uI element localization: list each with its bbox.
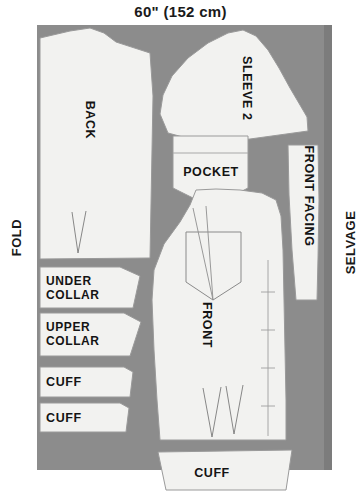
- pattern-piece-cuff-2: CUFF: [40, 403, 129, 432]
- cutting-layout-diagram: 60" (152 cm) FOLD SELVAGE BACK SLEEVE 2 …: [0, 0, 361, 496]
- piece-label-back: BACK: [83, 101, 97, 140]
- piece-label-pocket: POCKET: [183, 165, 239, 179]
- layout-illustration: BACK SLEEVE 2 POCKET FRONT FACING: [0, 0, 361, 496]
- piece-label-front: FRONT: [200, 302, 214, 348]
- piece-label-upper-collar-line2: COLLAR: [46, 334, 100, 348]
- piece-label-cuff-1: CUFF: [46, 375, 82, 389]
- piece-label-front-facing: FRONT FACING: [302, 146, 316, 247]
- fabric-shadow-right: [324, 25, 332, 470]
- piece-label-cuff-2: CUFF: [46, 411, 82, 425]
- piece-label-sleeve-2: SLEEVE 2: [240, 56, 254, 121]
- pattern-piece-under-collar: UNDER COLLAR: [40, 267, 140, 308]
- piece-label-cuff-3: CUFF: [194, 466, 230, 480]
- pattern-piece-back: BACK: [40, 28, 153, 259]
- piece-label-under-collar-line1: UNDER: [46, 274, 92, 288]
- pattern-piece-cuff-3: CUFF: [158, 450, 292, 490]
- piece-label-under-collar-line2: COLLAR: [46, 288, 100, 302]
- piece-label-upper-collar-line1: UPPER: [46, 320, 90, 334]
- pattern-piece-upper-collar: UPPER COLLAR: [40, 313, 141, 356]
- pattern-piece-cuff-1: CUFF: [40, 367, 133, 397]
